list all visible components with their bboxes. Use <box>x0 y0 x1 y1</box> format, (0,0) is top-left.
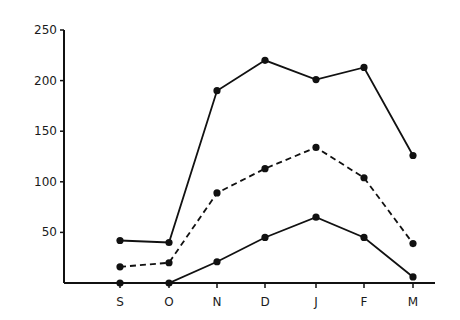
data-point <box>261 57 268 64</box>
series-line <box>116 214 416 287</box>
data-series <box>116 57 416 287</box>
y-tick-label: 50 <box>42 225 57 239</box>
y-tick-label: 200 <box>34 74 57 88</box>
y-tick-label: 100 <box>34 175 57 189</box>
data-point <box>213 258 220 265</box>
y-tick-label: 150 <box>34 124 57 138</box>
data-point <box>409 152 416 159</box>
data-point <box>116 237 123 244</box>
y-axis-ticks: 50100150200250 <box>34 23 64 239</box>
data-point <box>213 87 220 94</box>
x-tick-label: D <box>260 295 269 309</box>
data-point <box>261 234 268 241</box>
x-tick-label: F <box>361 295 368 309</box>
x-tick-label: O <box>164 295 173 309</box>
x-tick-label: M <box>408 295 418 309</box>
y-tick-label: 250 <box>34 23 57 37</box>
x-tick-label: S <box>116 295 124 309</box>
data-point <box>312 76 319 83</box>
x-axis-ticks: SONDJFM <box>116 283 418 309</box>
x-tick-label: N <box>213 295 222 309</box>
x-tick-label: J <box>313 295 318 309</box>
data-point <box>261 165 268 172</box>
data-point <box>213 189 220 196</box>
data-point <box>116 263 123 270</box>
data-point <box>165 259 172 266</box>
series-line <box>116 144 416 271</box>
line-chart: 50100150200250 SONDJFM <box>0 0 460 320</box>
data-point <box>165 239 172 246</box>
data-point <box>312 144 319 151</box>
data-point <box>312 214 319 221</box>
data-point <box>165 279 172 286</box>
series-line <box>116 57 416 246</box>
data-point <box>409 240 416 247</box>
data-point <box>360 174 367 181</box>
data-point <box>360 64 367 71</box>
data-point <box>360 234 367 241</box>
data-point <box>116 279 123 286</box>
data-point <box>409 273 416 280</box>
